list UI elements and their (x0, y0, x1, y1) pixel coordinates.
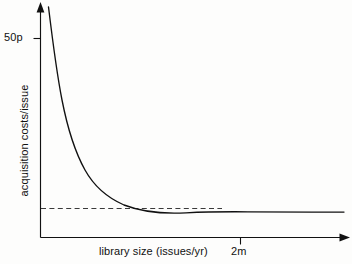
y-tick-label-50p: 50p (4, 32, 23, 43)
x-axis-arrow-icon (340, 234, 351, 242)
x-tick-label-2m: 2m (231, 246, 246, 257)
chart-plot-area (0, 0, 352, 264)
acquisition-cost-curve (49, 7, 345, 213)
y-axis-title: acquisition costs/issue (19, 71, 30, 211)
x-axis-title: library size (issues/yr) (99, 246, 208, 257)
y-axis-arrow-icon (37, 2, 45, 13)
chart-figure: 50p 2m library size (issues/yr) acquisit… (0, 0, 352, 264)
